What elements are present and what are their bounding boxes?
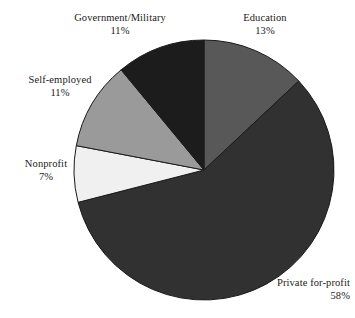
pie-label-self-employed-name: Self-employed [8,74,112,87]
pie-label-nonprofit: Nonprofit 7% [4,158,88,183]
pie-label-government-military-name: Government/Military [56,12,184,25]
pie-label-education: Education 13% [213,12,317,37]
pie-label-private-for-profit-value: 58% [232,290,350,303]
pie-slice-group [74,40,334,300]
pie-chart-figure: Government/Military 11% Education 13% Se… [0,0,355,318]
pie-label-nonprofit-value: 7% [4,171,88,184]
pie-label-private-for-profit: Private for-profit 58% [232,277,350,302]
pie-label-private-for-profit-name: Private for-profit [232,277,350,290]
pie-label-government-military-value: 11% [56,25,184,38]
pie-label-education-value: 13% [213,25,317,38]
pie-label-education-name: Education [213,12,317,25]
pie-label-government-military: Government/Military 11% [56,12,184,37]
pie-label-self-employed-value: 11% [8,87,112,100]
pie-label-nonprofit-name: Nonprofit [4,158,88,171]
pie-label-self-employed: Self-employed 11% [8,74,112,99]
